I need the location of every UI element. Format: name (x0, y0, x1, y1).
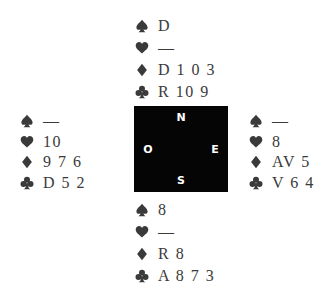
club-icon (135, 269, 149, 283)
north-diamonds-row: D 1 0 3 (135, 59, 216, 81)
heart-icon (20, 135, 34, 149)
hand-west: — 10 9 7 6 D 5 2 (20, 111, 86, 193)
west-diamonds-cards: 9 7 6 (43, 154, 83, 170)
east-clubs-cards: V 6 4 (272, 175, 315, 191)
west-clubs-cards: D 5 2 (43, 175, 86, 191)
north-clubs-cards: R 10 9 (158, 84, 210, 100)
north-spades-cards: D (158, 18, 171, 34)
north-hearts-cards: — (158, 40, 176, 56)
heart-icon (249, 135, 263, 149)
west-spades-cards: — (43, 113, 61, 129)
south-spades-cards: 8 (158, 202, 168, 218)
north-diamonds-cards: D 1 0 3 (158, 62, 216, 78)
north-clubs-row: R 10 9 (135, 81, 216, 103)
compass-box: N O E S (134, 106, 228, 192)
east-spades-row: — (249, 111, 315, 132)
west-hearts-cards: 10 (43, 134, 62, 150)
club-icon (249, 176, 263, 190)
hand-east: — 8 AV 5 V 6 4 (249, 111, 315, 193)
spade-icon (249, 114, 263, 128)
diamond-icon (249, 155, 263, 169)
north-hearts-row: — (135, 37, 216, 59)
east-hearts-cards: 8 (272, 134, 282, 150)
east-clubs-row: V 6 4 (249, 173, 315, 194)
compass-south-label: S (177, 175, 185, 186)
compass-east-label: E (211, 144, 219, 155)
south-diamonds-row: R 8 (135, 243, 215, 265)
spade-icon (20, 114, 34, 128)
diamond-icon (135, 63, 149, 77)
south-clubs-cards: A 8 7 3 (158, 268, 215, 284)
west-spades-row: — (20, 111, 86, 132)
north-spades-row: D (135, 15, 216, 37)
diamond-icon (135, 247, 149, 261)
club-icon (20, 176, 34, 190)
east-spades-cards: — (272, 113, 290, 129)
west-hearts-row: 10 (20, 132, 86, 153)
east-diamonds-row: AV 5 (249, 152, 315, 173)
diamond-icon (20, 155, 34, 169)
west-diamonds-row: 9 7 6 (20, 152, 86, 173)
compass-north-label: N (176, 112, 185, 123)
hand-south: 8 — R 8 A 8 7 3 (135, 199, 215, 287)
south-clubs-row: A 8 7 3 (135, 265, 215, 287)
heart-icon (135, 41, 149, 55)
south-hearts-row: — (135, 221, 215, 243)
heart-icon (135, 225, 149, 239)
east-hearts-row: 8 (249, 132, 315, 153)
south-spades-row: 8 (135, 199, 215, 221)
south-hearts-cards: — (158, 224, 176, 240)
hand-north: D — D 1 0 3 R 10 9 (135, 15, 216, 103)
spade-icon (135, 203, 149, 217)
spade-icon (135, 19, 149, 33)
east-diamonds-cards: AV 5 (272, 154, 311, 170)
south-diamonds-cards: R 8 (158, 246, 185, 262)
club-icon (135, 85, 149, 99)
compass-west-label: O (143, 144, 152, 155)
west-clubs-row: D 5 2 (20, 173, 86, 194)
